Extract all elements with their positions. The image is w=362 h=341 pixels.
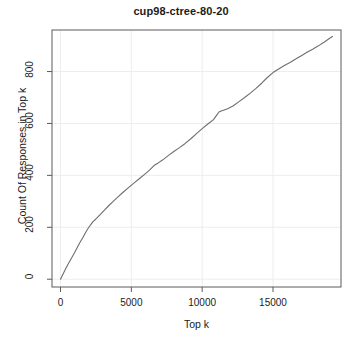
axis-ticks — [47, 72, 273, 292]
y-tick-label: 0 — [24, 262, 35, 292]
y-tick-label: 800 — [24, 54, 35, 84]
x-tick-label: 5000 — [106, 297, 156, 308]
chart-figure: cup98-ctree-80-20 Count Of Responses in … — [0, 0, 362, 341]
x-tick-label: 0 — [36, 297, 86, 308]
x-tick-label: 15000 — [248, 297, 298, 308]
plot-canvas — [0, 0, 362, 341]
plot-frame — [52, 30, 341, 287]
y-tick-label: 200 — [24, 210, 35, 240]
gridlines — [52, 30, 341, 287]
x-tick-label: 10000 — [177, 297, 227, 308]
y-tick-label: 600 — [24, 106, 35, 136]
y-tick-label: 400 — [24, 158, 35, 188]
data-series-line — [61, 36, 333, 279]
